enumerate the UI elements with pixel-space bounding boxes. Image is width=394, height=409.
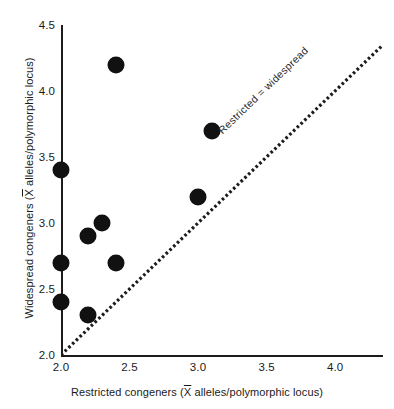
data-point: [53, 294, 70, 311]
x-axis-line: [61, 355, 383, 357]
x-tick-label: 2.5: [121, 361, 137, 373]
y-tick-label: 2.0: [39, 349, 55, 361]
x-axis-title: Restricted congeners (X alleles/polymorp…: [0, 386, 394, 398]
x-tick-label: 4.0: [327, 361, 343, 373]
scatter-plot-figure: 2.02.53.03.54.04.5 2.02.53.03.54.0 Restr…: [0, 0, 394, 409]
data-point: [107, 56, 124, 73]
data-point: [53, 254, 70, 271]
y-tick-label: 4.0: [39, 85, 55, 97]
y-tick-label: 3.5: [39, 151, 55, 163]
data-point: [190, 188, 207, 205]
identity-reference-line: [61, 25, 383, 355]
y-tick-label: 4.5: [39, 19, 55, 31]
y-tick-label: 2.5: [39, 283, 55, 295]
data-point: [80, 307, 97, 324]
data-point: [94, 215, 111, 232]
data-point: [53, 162, 70, 179]
x-tick-label: 3.5: [258, 361, 274, 373]
data-point: [80, 228, 97, 245]
x-tick-label: 2.0: [53, 361, 69, 373]
y-axis-title: Widespread congeners (X alleles/polymorp…: [23, 33, 35, 343]
y-tick-label: 3.0: [39, 217, 55, 229]
reference-line-label: Restricted = widespread: [216, 44, 311, 136]
data-point: [107, 254, 124, 271]
x-tick-label: 3.0: [190, 361, 206, 373]
plot-area: Restricted = widespread: [61, 25, 383, 355]
